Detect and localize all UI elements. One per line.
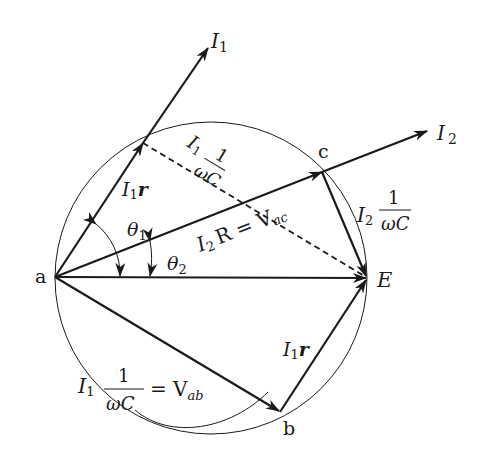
label-I1r-lower: I1r — [282, 338, 311, 362]
point-E-label: E — [376, 268, 392, 292]
svg-text:ωC: ωC — [381, 213, 410, 234]
label-I1-over-wC-dashed: I1 1 ωC — [173, 127, 237, 190]
vector-I1r-lower — [280, 280, 366, 412]
svg-text:I2: I2 — [356, 203, 373, 228]
point-c-label: c — [318, 140, 329, 162]
label-I2-over-wC: I2 1 ωC — [356, 187, 411, 234]
theta1-arc — [96, 224, 120, 276]
svg-text:1: 1 — [118, 365, 129, 386]
phasor-diagram: a b c E I1 I2 I1r I1r θ1 θ2 I2R = Vac I1… — [0, 0, 485, 464]
svg-text:1: 1 — [212, 143, 233, 167]
svg-text:= Vab: = Vab — [150, 377, 204, 403]
label-theta1: θ1 — [127, 218, 147, 243]
svg-text:I1: I1 — [77, 374, 95, 399]
theta2-arc — [150, 241, 152, 276]
label-I1-over-wC-Vab: I1 1 ωC = Vab — [77, 365, 204, 414]
svg-text:I2R = Vac: I2R = Vac — [192, 200, 290, 258]
label-I1: I1 — [210, 29, 228, 55]
svg-text:1: 1 — [388, 187, 399, 208]
point-a-label: a — [35, 265, 46, 287]
vector-I2 — [322, 131, 427, 172]
point-b-label: b — [283, 417, 295, 439]
label-I2: I2 — [436, 121, 457, 147]
vector-E — [55, 277, 366, 278]
svg-text:ωC: ωC — [106, 393, 135, 414]
svg-text:I1: I1 — [182, 130, 208, 159]
vector-I1r-upper — [55, 143, 143, 277]
label-I1r-upper: I1r — [121, 178, 150, 202]
label-I2R-Vac: I2R = Vac — [192, 200, 290, 258]
vector-I1 — [143, 48, 208, 143]
label-theta2: θ2 — [167, 252, 187, 277]
